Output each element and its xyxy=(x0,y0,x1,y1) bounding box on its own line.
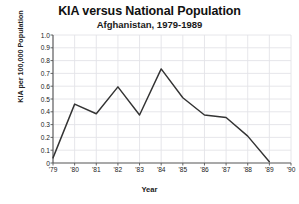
chart-subtitle: Afghanistan, 1979-1989 xyxy=(0,19,299,30)
x-tick-label: '89 xyxy=(257,166,281,174)
x-tick-label: '81 xyxy=(84,166,108,174)
x-axis-tick-labels: '79'80'81'82'83'84'85'86'87'88'89'90 xyxy=(53,166,291,176)
y-tick-label: 0.3 xyxy=(28,121,50,128)
x-tick-label: '82 xyxy=(106,166,130,174)
x-tick-label: '83 xyxy=(128,166,152,174)
x-axis-label: Year xyxy=(0,185,299,194)
y-tick-label: 1.0 xyxy=(28,32,50,39)
y-tick-label: 0.4 xyxy=(28,108,50,115)
x-tick-label: '90 xyxy=(279,166,299,174)
y-tick-label: 0.7 xyxy=(28,70,50,77)
y-tick-label: 0.1 xyxy=(28,147,50,154)
horizontal-gridlines xyxy=(53,35,291,150)
x-tick-label: '79 xyxy=(41,166,65,174)
y-tick-label: 0.2 xyxy=(28,134,50,141)
x-tick-label: '80 xyxy=(63,166,87,174)
x-tick-label: '84 xyxy=(149,166,173,174)
y-tick-label: 0.6 xyxy=(28,83,50,90)
chart-title: KIA versus National Population xyxy=(0,4,299,18)
y-tick-label: 0.8 xyxy=(28,57,50,64)
y-tick-label: 0.9 xyxy=(28,44,50,51)
x-tick-label: '87 xyxy=(214,166,238,174)
chart-figure: KIA versus National Population Afghanist… xyxy=(0,0,299,204)
y-axis-label: KIA per 100,000 Population xyxy=(16,0,25,127)
x-tick-label: '88 xyxy=(236,166,260,174)
x-tick-label: '86 xyxy=(192,166,216,174)
x-tick-label: '85 xyxy=(171,166,195,174)
plot-area xyxy=(53,35,291,163)
y-axis-tick-labels: 1.00.90.80.70.60.50.40.30.20.10 xyxy=(27,35,50,163)
line-chart-svg xyxy=(53,35,291,163)
y-tick-label: 0.5 xyxy=(28,96,50,103)
